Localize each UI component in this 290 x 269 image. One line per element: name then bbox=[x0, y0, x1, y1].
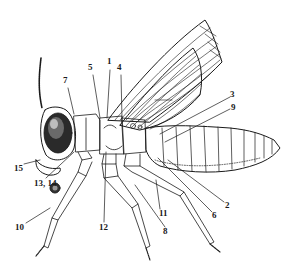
label-7: 7 bbox=[63, 76, 68, 85]
label-11: 11 bbox=[159, 209, 168, 218]
label-5: 5 bbox=[88, 63, 93, 72]
label-4: 4 bbox=[117, 63, 122, 72]
label-9: 9 bbox=[231, 103, 236, 112]
label-3: 3 bbox=[230, 90, 235, 99]
mesothorax bbox=[100, 116, 124, 154]
label-6: 6 bbox=[212, 211, 217, 220]
prothorax bbox=[74, 114, 100, 152]
insect-drawing bbox=[0, 0, 290, 269]
label-13-14: 13, 14 bbox=[34, 179, 57, 188]
antenna bbox=[39, 58, 42, 108]
insect-diagram: 1 2 3 4 5 6 7 8 9 10 11 12 13, 14 15 bbox=[0, 0, 290, 269]
label-15: 15 bbox=[14, 164, 23, 173]
label-1: 1 bbox=[107, 57, 112, 66]
label-10: 10 bbox=[15, 223, 24, 232]
forewing bbox=[108, 20, 222, 122]
label-12: 12 bbox=[99, 223, 108, 232]
label-2: 2 bbox=[225, 201, 230, 210]
foreleg bbox=[36, 152, 92, 256]
label-8: 8 bbox=[163, 227, 168, 236]
midleg bbox=[102, 154, 150, 260]
